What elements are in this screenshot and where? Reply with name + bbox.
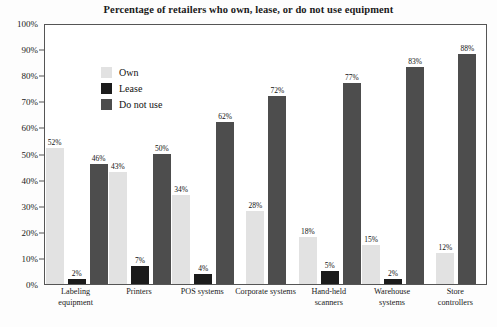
y-axis-tick-label: 100%	[17, 19, 38, 29]
y-axis-tick-label: 90%	[22, 45, 39, 55]
bar-group: 34%4%62%	[172, 25, 235, 284]
bar-value-label: 5%	[325, 261, 335, 270]
bar-value-label: 28%	[249, 201, 263, 210]
legend-swatch-icon	[101, 67, 112, 78]
chart-title: Percentage of retailers who own, lease, …	[0, 4, 497, 15]
y-axis-tick-label: 0%	[26, 280, 38, 290]
bar-group: 28%72%	[235, 25, 298, 284]
bar-group: 43%7%50%	[108, 25, 171, 284]
y-axis-tick-label: 50%	[22, 150, 39, 160]
legend-item: Own	[101, 65, 162, 80]
x-axis: Labeling equipmentPrintersPOS systemsCor…	[44, 287, 487, 327]
bar-value-label: 46%	[92, 154, 106, 163]
bar-value-label: 2%	[72, 269, 82, 278]
bar-value-label: 72%	[271, 86, 285, 95]
bar-value-label: 12%	[438, 243, 452, 252]
plot-area: 52%2%46%43%7%50%34%4%62%28%72%18%5%77%15…	[44, 24, 487, 285]
y-axis-tick-label: 40%	[22, 176, 39, 186]
bar-value-label: 62%	[218, 112, 232, 121]
x-axis-category-label: Corporate systems	[235, 287, 296, 298]
bar-lease: 7%	[131, 266, 149, 284]
legend-label: Do not use	[119, 99, 162, 110]
bar-lease: 2%	[384, 279, 402, 284]
legend-item: Lease	[101, 81, 162, 96]
y-axis-tick-label: 60%	[22, 123, 39, 133]
x-axis-category-label: POS systems	[181, 287, 224, 298]
chart-legend: OwnLeaseDo not use	[101, 65, 162, 113]
x-axis-category-label: Warehouse systems	[374, 287, 410, 308]
bar-value-label: 50%	[155, 144, 169, 153]
bar-do-not-use: 62%	[216, 122, 234, 284]
legend-swatch-icon	[101, 99, 112, 110]
bar-value-label: 7%	[135, 256, 145, 265]
x-axis-category-label: Printers	[126, 287, 151, 298]
legend-swatch-icon	[101, 83, 112, 94]
x-axis-category-label: Hand-held scanners	[312, 287, 347, 308]
legend-item: Do not use	[101, 97, 162, 112]
bar-value-label: 2%	[388, 269, 398, 278]
y-axis-tick-label: 70%	[22, 97, 39, 107]
bars-layer: 52%2%46%43%7%50%34%4%62%28%72%18%5%77%15…	[45, 25, 486, 284]
bar-own: 15%	[362, 245, 380, 284]
bar-lease: 2%	[68, 279, 86, 284]
y-axis-tick-label: 80%	[22, 71, 39, 81]
bar-value-label: 34%	[174, 185, 188, 194]
bar-value-label: 52%	[48, 138, 62, 147]
bar-own: 18%	[299, 237, 317, 284]
legend-label: Own	[119, 67, 138, 78]
y-axis-tick-label: 20%	[22, 228, 39, 238]
bar-lease: 4%	[194, 274, 212, 284]
bar-do-not-use: 46%	[90, 164, 108, 284]
bar-own: 34%	[172, 195, 190, 284]
bar-value-label: 83%	[408, 57, 422, 66]
x-axis-category-label: Store controllers	[438, 287, 473, 308]
bar-value-label: 4%	[198, 264, 208, 273]
bar-group: 18%5%77%	[298, 25, 361, 284]
bar-value-label: 77%	[345, 73, 359, 82]
bar-value-label: 18%	[301, 227, 315, 236]
bar-own: 52%	[46, 148, 64, 284]
bar-do-not-use: 72%	[268, 96, 286, 284]
y-axis: 0%10%20%30%40%50%60%70%80%90%100%	[0, 24, 44, 285]
bar-value-label: 43%	[111, 162, 125, 171]
bar-do-not-use: 50%	[153, 154, 171, 285]
y-axis-tick-label: 30%	[22, 202, 39, 212]
x-axis-category-label: Labeling equipment	[58, 287, 93, 308]
y-axis-tick-label: 10%	[22, 254, 39, 264]
bar-group: 15%2%83%	[361, 25, 424, 284]
bar-value-label: 15%	[364, 235, 378, 244]
legend-label: Lease	[119, 83, 142, 94]
bar-value-label: 88%	[460, 44, 474, 53]
bar-do-not-use: 83%	[406, 67, 424, 284]
bar-lease: 5%	[321, 271, 339, 284]
bar-own: 28%	[246, 211, 264, 284]
bar-group: 12%88%	[425, 25, 488, 284]
bar-chart: Percentage of retailers who own, lease, …	[0, 0, 497, 327]
bar-own: 43%	[109, 172, 127, 284]
bar-own: 12%	[436, 253, 454, 284]
bar-group: 52%2%46%	[45, 25, 108, 284]
bar-do-not-use: 77%	[343, 83, 361, 284]
bar-do-not-use: 88%	[458, 54, 476, 284]
